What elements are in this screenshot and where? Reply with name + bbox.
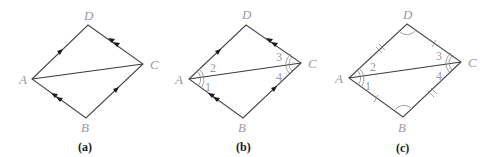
caption-a: (a): [78, 140, 92, 154]
diagonal-ac: [349, 62, 461, 78]
angle-label-1: 1: [205, 80, 211, 94]
double-arrow-icon: [113, 42, 120, 47]
figure-c: A D C B 2 1 3 4 (c): [334, 7, 477, 155]
diagonal-ac: [189, 63, 301, 79]
vertex-label-b: B: [398, 120, 406, 135]
vertex-label-b: B: [238, 120, 246, 135]
vertex-label-a: A: [174, 72, 183, 87]
vertex-label-a: A: [334, 71, 343, 86]
vertex-label-d: D: [83, 8, 94, 23]
vertex-label-c: C: [308, 56, 317, 71]
diagonal-ac: [32, 64, 143, 79]
angle-arc-b: [395, 105, 412, 110]
angle-arc-d: [399, 30, 416, 35]
angle-label-2: 2: [210, 61, 216, 75]
vertex-label-c: C: [468, 55, 477, 70]
vertex-label-d: D: [402, 7, 413, 22]
angle-label-3: 3: [436, 49, 442, 63]
angle-label-2: 2: [370, 60, 376, 74]
angle-arc-c: [449, 55, 453, 70]
figure-b: A D C B 2 1 3 4 (b): [174, 7, 317, 154]
angle-arc-c: [446, 53, 451, 72]
tick-mark: [428, 91, 434, 97]
angle-label-3: 3: [276, 50, 282, 64]
angle-arc-c: [289, 56, 293, 71]
parallelogram-figures: A D C B (a) A D C B 2 1 3 4 (b): [0, 0, 492, 157]
caption-b: (b): [236, 140, 251, 154]
vertex-label-a: A: [18, 72, 27, 87]
vertex-label-d: D: [241, 7, 252, 22]
angle-label-4: 4: [436, 69, 442, 83]
tick-mark: [431, 88, 437, 94]
vertex-label-c: C: [150, 57, 159, 72]
angle-label-1: 1: [365, 79, 371, 93]
vertex-label-b: B: [81, 120, 89, 135]
angle-arc-c: [286, 54, 291, 73]
caption-c: (c): [396, 141, 409, 155]
angle-label-4: 4: [276, 70, 282, 84]
figure-a: A D C B (a): [18, 8, 159, 154]
